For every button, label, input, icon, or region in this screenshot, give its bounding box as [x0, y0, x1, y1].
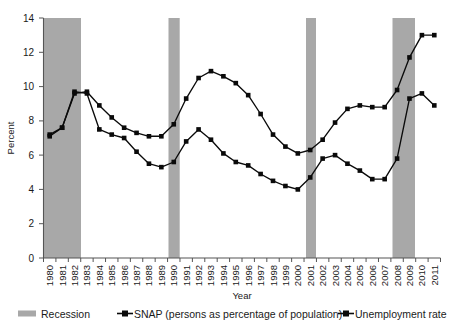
x-tick-label: 1987 [131, 265, 142, 286]
y-tick-label: 6 [28, 150, 34, 161]
recession-bands-group [44, 18, 416, 258]
data-point-marker [122, 136, 127, 141]
data-point-marker [234, 81, 239, 86]
data-point-marker [432, 33, 437, 38]
x-tick-label: 2004 [342, 265, 353, 286]
data-point-marker [134, 131, 139, 136]
x-tick-label: 1988 [143, 265, 154, 286]
data-point-marker [382, 105, 387, 110]
data-point-marker [358, 168, 363, 173]
data-point-marker [271, 132, 276, 137]
data-point-marker [283, 184, 288, 189]
x-tick-label: 1993 [205, 265, 216, 286]
data-point-marker [171, 160, 176, 165]
data-point-marker [370, 177, 375, 182]
data-point-marker [209, 137, 214, 142]
x-tick-label: 1992 [193, 265, 204, 286]
data-point-marker [147, 134, 152, 139]
data-point-marker [234, 160, 239, 165]
data-point-marker [333, 153, 338, 158]
data-point-marker [296, 187, 301, 192]
x-tick-label: 1982 [69, 265, 80, 286]
data-point-marker [109, 132, 114, 137]
chart-legend: Recession SNAP (persons as percentage of… [18, 308, 447, 320]
x-tick-label: 1995 [230, 265, 241, 286]
x-tick-label: 1981 [57, 265, 68, 286]
data-point-marker [407, 96, 412, 101]
y-tick-labels: 14 12 10 8 6 4 2 0 [23, 13, 35, 264]
data-point-marker [246, 93, 251, 98]
data-point-marker [296, 151, 301, 156]
y-tick-label: 8 [28, 115, 34, 126]
data-point-marker [221, 74, 226, 79]
data-point-marker [184, 139, 189, 144]
y-tick-marks [39, 18, 44, 258]
series-line [50, 92, 435, 190]
data-point-marker [382, 177, 387, 182]
data-point-marker [60, 125, 65, 130]
data-point-marker [345, 161, 350, 166]
x-tick-label: 2006 [367, 265, 378, 286]
data-point-marker [258, 112, 263, 117]
data-point-marker [258, 172, 263, 177]
x-tick-label: 1985 [106, 265, 117, 286]
y-tick-label: 10 [23, 81, 35, 92]
x-tick-label: 2007 [379, 265, 390, 286]
series-unemployment [47, 89, 436, 191]
data-point-marker [333, 120, 338, 125]
x-tick-labels: 1980198119821983198419851986198719881989… [44, 265, 440, 286]
data-point-marker [320, 137, 325, 142]
recession-band [169, 18, 180, 258]
data-point-marker [271, 179, 276, 184]
data-point-marker [370, 105, 375, 110]
y-tick-label: 4 [28, 184, 34, 195]
x-tick-label: 1994 [218, 265, 229, 286]
data-point-marker [109, 115, 114, 120]
x-tick-label: 1986 [119, 265, 130, 286]
legend-label-recession: Recession [41, 308, 90, 320]
y-tick-label: 14 [23, 13, 35, 24]
data-point-marker [209, 69, 214, 74]
x-tick-label: 1990 [168, 265, 179, 286]
x-tick-label: 2008 [392, 265, 403, 286]
data-point-marker [420, 91, 425, 96]
data-point-marker [134, 149, 139, 154]
y-axis-title: Percent [5, 121, 16, 154]
series-snap [47, 33, 436, 156]
y-tick-label: 12 [23, 47, 35, 58]
data-point-marker [407, 55, 412, 60]
legend-label-unemployment: Unemployment rate [355, 308, 447, 320]
y-tick-label: 2 [28, 218, 34, 229]
x-tick-label: 2009 [404, 265, 415, 286]
data-point-marker [432, 103, 437, 108]
legend-snap-marker [117, 311, 133, 317]
x-tick-label: 2002 [317, 265, 328, 286]
data-point-marker [184, 96, 189, 101]
x-axis-title: Year [232, 290, 251, 301]
x-tick-label: 1991 [181, 265, 192, 286]
data-point-marker [395, 156, 400, 161]
line-chart: 14 12 10 8 6 4 2 0 Percent 1980198119821… [0, 0, 449, 328]
data-point-marker [320, 156, 325, 161]
recession-band [306, 18, 316, 258]
x-tick-marks [44, 258, 441, 262]
data-point-marker [395, 88, 400, 93]
data-point-marker [159, 165, 164, 170]
x-tick-label: 1983 [81, 265, 92, 286]
data-point-marker [72, 89, 77, 94]
data-point-marker [196, 76, 201, 81]
y-tick-label: 0 [28, 253, 34, 264]
x-tick-label: 1997 [255, 265, 266, 286]
data-point-marker [358, 103, 363, 108]
x-tick-label: 1999 [280, 265, 291, 286]
legend-label-snap: SNAP (persons as percentage of populatio… [134, 308, 342, 320]
data-point-marker [308, 148, 313, 153]
x-tick-label: 1998 [268, 265, 279, 286]
data-point-marker [147, 161, 152, 166]
x-tick-label: 2011 [429, 265, 440, 285]
chart-container: 14 12 10 8 6 4 2 0 Percent 1980198119821… [0, 0, 449, 328]
data-point-marker [345, 107, 350, 112]
x-tick-label: 2001 [305, 265, 316, 286]
x-tick-label: 1984 [94, 265, 105, 286]
x-tick-label: 1989 [156, 265, 167, 286]
